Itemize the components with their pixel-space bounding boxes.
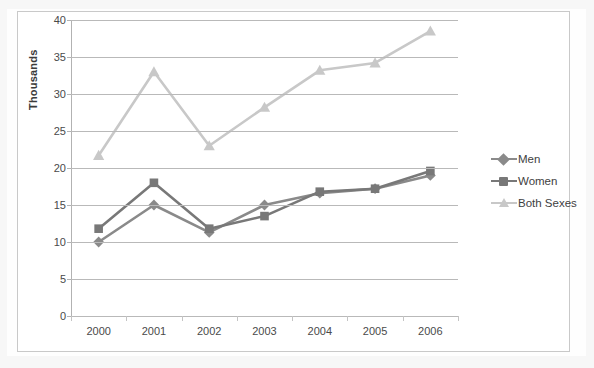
legend-label: Both Sexes (517, 197, 577, 209)
gridline (71, 316, 458, 317)
x-axis-tick-label: 2003 (243, 325, 287, 337)
legend-item-women[interactable]: Women (491, 170, 573, 192)
x-axis-tick-label: 2000 (77, 325, 121, 337)
square-marker-icon (499, 177, 508, 186)
y-axis-tick-label: 5 (44, 274, 66, 285)
gridline (71, 94, 458, 95)
x-axis-tick-label: 2002 (187, 325, 231, 337)
legend-label: Men (517, 153, 540, 165)
x-axis-tick-mark (347, 316, 348, 321)
x-axis-tick-mark (126, 316, 127, 321)
y-axis-tick-label: 30 (44, 89, 66, 100)
legend-item-men[interactable]: Men (491, 148, 573, 170)
x-axis-tick-mark (458, 316, 459, 321)
scan-edge-top (0, 0, 594, 9)
y-axis-tick-labels: 0510152025303540 (44, 20, 66, 316)
y-axis-tick-mark (67, 205, 71, 206)
y-axis-tick-label: 35 (44, 52, 66, 63)
x-axis-tick-label: 2004 (298, 325, 342, 337)
square-marker-icon (205, 224, 214, 233)
y-axis-tick-mark (67, 242, 71, 243)
y-axis-tick-label: 25 (44, 126, 66, 137)
y-axis-title: Thousands (26, 28, 40, 132)
chart-legend: MenWomenBoth Sexes (491, 148, 573, 214)
y-axis-tick-label: 10 (44, 237, 66, 248)
plot-area (71, 20, 458, 316)
x-axis-tick-mark (71, 316, 72, 321)
triangle-marker-icon (499, 198, 509, 207)
y-axis-tick-mark (67, 57, 71, 58)
x-axis-tick-mark (403, 316, 404, 321)
triangle-marker-icon (425, 26, 436, 36)
y-axis-tick-label: 20 (44, 163, 66, 174)
series-men (93, 170, 436, 247)
square-marker-icon (315, 187, 324, 196)
y-axis-tick-mark (67, 168, 71, 169)
square-marker-icon (260, 212, 269, 221)
legend-swatch (491, 152, 517, 166)
gridline (71, 279, 458, 280)
square-marker-icon (94, 224, 103, 233)
x-axis-tick-label: 2006 (408, 325, 452, 337)
y-axis-tick-mark (67, 131, 71, 132)
y-axis-tick-label: 0 (44, 311, 66, 322)
square-marker-icon (150, 179, 159, 188)
triangle-marker-icon (148, 66, 159, 76)
x-axis-tick-mark (182, 316, 183, 321)
legend-swatch (491, 196, 517, 210)
x-axis-tick-mark (292, 316, 293, 321)
gridline (71, 205, 458, 206)
y-axis-tick-mark (67, 279, 71, 280)
chart-screenshot: Thousands 0510152025303540 2000200120022… (0, 0, 594, 368)
y-axis-tick-mark (67, 94, 71, 95)
gridline (71, 20, 458, 21)
gridline (71, 242, 458, 243)
diamond-marker-icon (497, 153, 510, 166)
x-axis-tick-labels: 2000200120022003200420052006 (71, 325, 458, 341)
legend-label: Women (517, 175, 557, 187)
x-axis-tick-mark (237, 316, 238, 321)
y-axis-tick-label: 40 (44, 15, 66, 26)
legend-item-both-sexes[interactable]: Both Sexes (491, 192, 573, 214)
gridline (71, 168, 458, 169)
y-axis-tick-label: 15 (44, 200, 66, 211)
gridline (71, 57, 458, 58)
square-marker-icon (371, 184, 380, 193)
y-axis-tick-mark (67, 20, 71, 21)
scan-edge-bottom (0, 356, 594, 368)
series-both-sexes (93, 26, 436, 160)
x-axis-tick-label: 2005 (353, 325, 397, 337)
scan-edge-left (0, 0, 7, 368)
gridline (71, 131, 458, 132)
legend-swatch (491, 174, 517, 188)
x-axis-tick-label: 2001 (132, 325, 176, 337)
scan-edge-right (586, 0, 594, 368)
